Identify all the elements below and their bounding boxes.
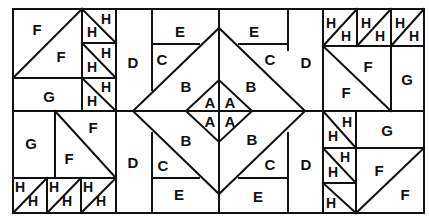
quilt-pattern-diagram: FFGHHHHHHGFFHHHHHHDDECBBCEAAAAECBBCEDDHH… — [0, 0, 429, 220]
piece-label-f: F — [56, 48, 65, 65]
piece-label-h: H — [342, 114, 352, 130]
piece-label-a: A — [225, 94, 236, 111]
piece-label-d: D — [128, 54, 139, 71]
piece-label-h: H — [62, 193, 72, 209]
piece-label-c: C — [158, 157, 169, 174]
piece-label-h: H — [341, 28, 351, 44]
piece-label-h: H — [87, 24, 97, 40]
piece-label-h: H — [49, 179, 59, 195]
piece-label-h: H — [87, 59, 97, 75]
piece-label-e: E — [249, 23, 259, 40]
piece-label-g: G — [25, 135, 37, 152]
piece-label-h: H — [395, 15, 405, 31]
piece-label-h: H — [101, 45, 111, 61]
piece-label-h: H — [361, 15, 371, 31]
piece-label-f: F — [32, 21, 41, 38]
piece-label-a: A — [205, 94, 216, 111]
piece-label-h: H — [101, 79, 111, 95]
piece-label-e: E — [174, 186, 184, 203]
piece-label-h: H — [15, 179, 25, 195]
piece-label-h: H — [409, 28, 419, 44]
br-f-diagonal — [356, 148, 424, 213]
piece-label-b: B — [181, 78, 192, 95]
piece-label-b: B — [247, 131, 258, 148]
piece-label-c: C — [265, 51, 276, 68]
piece-label-e: E — [175, 23, 185, 40]
piece-label-f: F — [400, 186, 409, 203]
piece-label-h: H — [328, 128, 338, 144]
piece-label-h: H — [326, 195, 336, 211]
piece-label-d: D — [128, 154, 139, 171]
piece-label-h: H — [96, 193, 106, 209]
piece-label-f: F — [341, 84, 350, 101]
piece-label-e: E — [253, 188, 263, 205]
piece-label-h: H — [340, 149, 350, 165]
piece-label-a: A — [205, 113, 216, 130]
piece-label-b: B — [181, 132, 192, 149]
piece-label-f: F — [374, 162, 383, 179]
piece-label-d: D — [301, 156, 312, 173]
piece-label-d: D — [301, 54, 312, 71]
piece-label-f: F — [88, 119, 97, 136]
piece-label-f: F — [64, 150, 73, 167]
tl-f-diagonal — [13, 9, 82, 78]
piece-label-h: H — [328, 164, 338, 180]
piece-label-a: A — [225, 113, 236, 130]
piece-label-c: C — [265, 156, 276, 173]
piece-label-h: H — [375, 28, 385, 44]
piece-label-h: H — [28, 193, 38, 209]
piece-label-g: G — [381, 122, 393, 139]
piece-label-h: H — [87, 93, 97, 109]
bl-f-diagonal — [55, 111, 116, 178]
piece-label-h: H — [83, 179, 93, 195]
piece-label-h: H — [101, 11, 111, 27]
piece-label-g: G — [401, 71, 413, 88]
piece-label-c: C — [157, 51, 168, 68]
tr-f-diagonal — [323, 46, 391, 111]
piece-label-f: F — [363, 58, 372, 75]
piece-label-b: B — [246, 78, 257, 95]
piece-label-g: G — [43, 88, 55, 105]
piece-label-h: H — [326, 15, 336, 31]
